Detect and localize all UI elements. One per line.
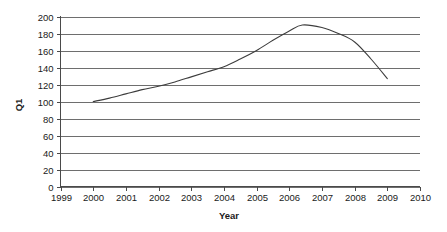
- y-tick-label: 60: [43, 131, 54, 142]
- x-tick-label: 2004: [214, 192, 235, 203]
- y-tick-label: 100: [38, 97, 54, 108]
- chart-container: 020406080100120140160180200 199920002001…: [0, 0, 447, 232]
- x-tick-label: 2003: [181, 192, 202, 203]
- y-tick-label: 160: [38, 46, 54, 57]
- x-tick-label: 2000: [83, 192, 104, 203]
- y-tick-label: 80: [43, 114, 54, 125]
- x-tick-label: 2001: [116, 192, 137, 203]
- x-tick-label: 2007: [312, 192, 333, 203]
- y-tick-label: 20: [43, 165, 54, 176]
- x-tick-label: 1999: [51, 192, 72, 203]
- y-tick-label: 140: [38, 63, 54, 74]
- x-tick-label: 2005: [247, 192, 268, 203]
- line-chart: 020406080100120140160180200 199920002001…: [0, 0, 447, 232]
- x-tick-label: 2006: [279, 192, 300, 203]
- x-axis-title: Year: [219, 210, 239, 221]
- x-tick-label: 2002: [149, 192, 170, 203]
- y-tick-label: 120: [38, 80, 54, 91]
- y-axis-title: Q1: [13, 98, 24, 111]
- x-tick-label: 2009: [377, 192, 398, 203]
- x-tick-label: 2008: [345, 192, 366, 203]
- y-tick-label: 200: [38, 12, 54, 23]
- y-tick-label: 180: [38, 29, 54, 40]
- x-tick-label: 2010: [410, 192, 431, 203]
- y-tick-label: 40: [43, 148, 54, 159]
